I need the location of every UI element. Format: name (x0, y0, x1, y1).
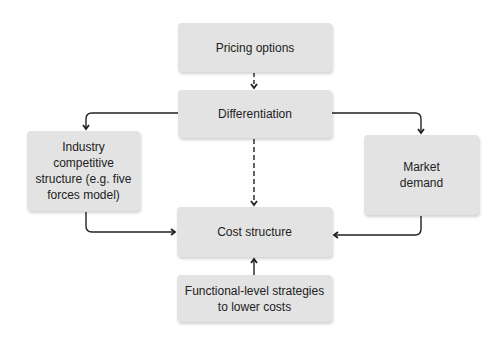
node-market-demand: Market demand (364, 135, 479, 215)
edge-industry-cost (86, 212, 175, 232)
node-label: Pricing options (216, 40, 295, 56)
node-industry-competitive-structure: Industry competitive structure (e.g. fiv… (27, 131, 140, 211)
node-label: Industry competitive structure (e.g. fiv… (34, 139, 134, 203)
node-functional-level-strategies: Functional-level strategies to lower cos… (177, 275, 332, 322)
edge-market-cost (334, 216, 421, 235)
node-cost-structure: Cost structure (177, 207, 332, 257)
edge-differentiation-industry (86, 113, 178, 129)
node-label: Cost structure (217, 224, 292, 240)
edge-differentiation-market (332, 113, 421, 133)
node-label: Differentiation (218, 106, 292, 122)
node-label: Functional-level strategies to lower cos… (185, 283, 325, 315)
node-differentiation: Differentiation (178, 90, 332, 138)
node-label: Market demand (392, 159, 452, 191)
node-pricing-options: Pricing options (178, 23, 332, 72)
